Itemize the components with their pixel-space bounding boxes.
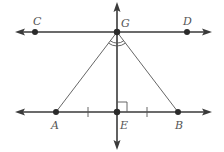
- point-d: [184, 29, 190, 35]
- label-d: D: [182, 15, 192, 28]
- line-cd: [15, 29, 212, 36]
- label-g: G: [121, 17, 130, 30]
- point-b: [175, 109, 181, 115]
- segment-ga: [56, 32, 117, 112]
- point-a: [53, 109, 59, 115]
- segment-gb: [117, 32, 178, 112]
- point-g: [114, 29, 120, 35]
- label-b: B: [174, 119, 183, 132]
- point-e: [114, 109, 120, 115]
- label-e: E: [119, 119, 128, 132]
- point-c: [32, 29, 38, 35]
- label-c: C: [33, 15, 42, 28]
- geometry-diagram: C G D A E B: [0, 0, 224, 152]
- label-a: A: [50, 119, 59, 132]
- line-ab: [15, 109, 212, 116]
